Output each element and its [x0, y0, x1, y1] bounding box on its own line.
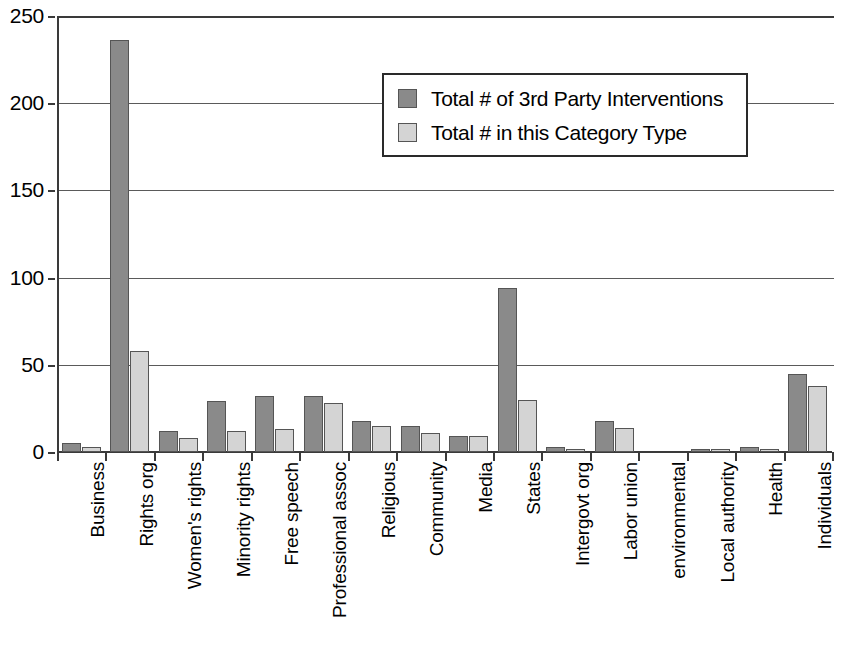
- y-tick-label: 100: [0, 267, 44, 288]
- x-axis-label: Community: [427, 462, 446, 556]
- bar-group: [57, 16, 105, 452]
- bar: [62, 443, 81, 452]
- x-tick-mark: [832, 452, 834, 461]
- legend-swatch-icon-0: [398, 89, 417, 108]
- x-axis-label: Free speech: [282, 462, 301, 565]
- x-axis-label: Professional assoc: [330, 462, 349, 618]
- bar: [498, 288, 517, 452]
- bar-group: [784, 16, 832, 452]
- x-tick-mark: [154, 452, 156, 461]
- x-axis-label: Rights org: [137, 462, 156, 547]
- x-tick-mark: [57, 452, 59, 461]
- x-axis-label: States: [524, 462, 543, 515]
- chart-legend: Total # of 3rd Party Interventions Total…: [382, 73, 748, 157]
- x-axis-labels: BusinessRights orgWomen's rightsMinority…: [57, 462, 832, 650]
- y-tick-mark: [48, 190, 55, 192]
- x-axis-ticks: [57, 452, 832, 462]
- bar-group: [154, 16, 202, 452]
- bar: [449, 436, 468, 452]
- bar: [808, 386, 827, 452]
- x-tick-mark: [396, 452, 398, 461]
- bar: [615, 428, 634, 452]
- bar-chart: 050100150200250 BusinessRights orgWomen'…: [0, 0, 843, 650]
- bar-group: [202, 16, 250, 452]
- bar: [304, 396, 323, 452]
- x-axis-label: Health: [766, 462, 785, 516]
- bar: [324, 403, 343, 452]
- x-tick-mark: [299, 452, 301, 461]
- x-axis-label: Minority rights: [234, 462, 253, 577]
- bar: [179, 438, 198, 452]
- y-tick-label: 200: [0, 92, 44, 113]
- bar: [110, 40, 129, 452]
- bar: [227, 431, 246, 452]
- bar-group: [251, 16, 299, 452]
- bar: [518, 400, 537, 452]
- x-tick-mark: [590, 452, 592, 461]
- x-axis-label: Business: [88, 462, 107, 538]
- x-axis-label: environmental: [669, 462, 688, 579]
- legend-item-0: Total # of 3rd Party Interventions: [384, 81, 746, 115]
- y-tick-mark: [48, 452, 55, 454]
- x-tick-mark: [541, 452, 543, 461]
- x-tick-mark: [687, 452, 689, 461]
- y-tick-label: 0: [0, 441, 44, 462]
- bar: [595, 421, 614, 452]
- bar: [372, 426, 391, 452]
- bar-group: [299, 16, 347, 452]
- y-axis: 050100150200250: [0, 0, 44, 460]
- bar: [352, 421, 371, 452]
- bar: [207, 401, 226, 452]
- legend-label-1: Total # in this Category Type: [431, 122, 687, 143]
- x-tick-mark: [493, 452, 495, 461]
- y-tick-label: 150: [0, 179, 44, 200]
- x-tick-mark: [348, 452, 350, 461]
- x-axis-label: Media: [476, 462, 495, 513]
- bar-group: [105, 16, 153, 452]
- y-tick-mark: [48, 365, 55, 367]
- x-tick-mark: [105, 452, 107, 461]
- y-tick-mark: [48, 16, 55, 18]
- x-axis-label: Labor union: [621, 462, 640, 560]
- bar: [469, 436, 488, 452]
- x-axis-label: Women's rights: [185, 462, 204, 589]
- y-tick-label: 50: [0, 354, 44, 375]
- y-tick-mark: [48, 278, 55, 280]
- x-axis-label: Local authority: [718, 462, 737, 583]
- bar: [275, 429, 294, 452]
- x-axis-label: Intergovt org: [573, 462, 592, 566]
- legend-label-0: Total # of 3rd Party Interventions: [431, 88, 723, 109]
- bar: [130, 351, 149, 452]
- x-tick-mark: [735, 452, 737, 461]
- bar: [159, 431, 178, 452]
- x-axis-label: Individuals: [815, 462, 834, 550]
- y-tick-mark: [48, 103, 55, 105]
- bar: [401, 426, 420, 452]
- x-tick-mark: [202, 452, 204, 461]
- legend-item-1: Total # in this Category Type: [384, 115, 746, 149]
- x-tick-mark: [784, 452, 786, 461]
- y-tick-label: 250: [0, 5, 44, 26]
- x-tick-mark: [251, 452, 253, 461]
- x-tick-mark: [638, 452, 640, 461]
- bar: [421, 433, 440, 452]
- bar: [255, 396, 274, 452]
- bar: [788, 374, 807, 452]
- x-axis-label: Religious: [379, 462, 398, 538]
- x-tick-mark: [445, 452, 447, 461]
- legend-swatch-icon-1: [398, 123, 417, 142]
